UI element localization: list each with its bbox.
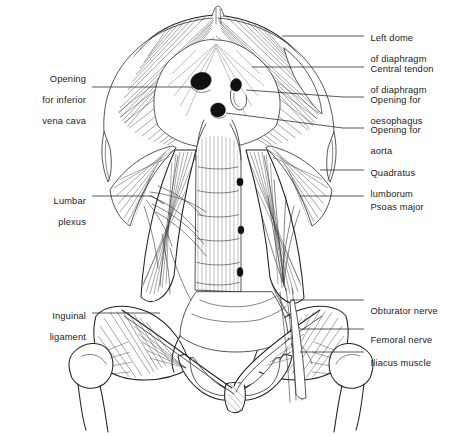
label-line-1: Lumbar [54, 196, 86, 206]
anatomy-figure: Left dome of diaphragm Central tendon of… [0, 0, 456, 436]
label-obturator-nerve: Obturator nerve [365, 295, 438, 316]
label-line-2: plexus [58, 217, 86, 227]
label-line-1: Obturator nerve [370, 306, 437, 316]
label-opening-for-aorta: Opening for aorta [365, 114, 421, 156]
label-line-2: aorta [370, 146, 392, 156]
label-opening-for-inferior-vena-cava: Opening for inferior vena cava [0, 63, 86, 127]
label-line-1: Left dome [370, 33, 413, 43]
label-line-1: Opening for [370, 125, 420, 135]
label-line-1: Opening [50, 74, 86, 84]
label-inguinal-ligament: Inguinal ligament [0, 300, 86, 342]
label-femoral-nerve: Femoral nerve [365, 324, 432, 345]
label-line-1: Iliacus muscle [370, 358, 430, 368]
femur-head-right [69, 343, 113, 432]
label-line-1: Psoas major [370, 202, 423, 212]
label-line-2: ligament [50, 332, 86, 342]
label-line-2: for inferior [42, 95, 86, 105]
lumbar-vertebral-column [195, 120, 244, 292]
label-line-1: Quadratus [370, 168, 415, 178]
label-lumbar-plexus: Lumbar plexus [0, 185, 86, 227]
label-psoas-major: Psoas major [365, 191, 424, 212]
label-line-1: Opening for [370, 95, 420, 105]
label-line-3: vena cava [42, 116, 86, 126]
label-line-1: Inguinal [52, 311, 86, 321]
label-line-1: Central tendon [370, 64, 433, 74]
label-line-1: Femoral nerve [370, 335, 432, 345]
label-iliacus-muscle: Iliacus muscle [365, 347, 431, 368]
